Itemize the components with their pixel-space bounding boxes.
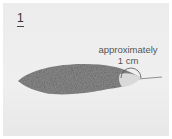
measurement-label: approximately 1 cm (96, 44, 160, 66)
leaf-illustration (0, 0, 172, 139)
measurement-label-line1: approximately (96, 44, 160, 55)
leaf-tip (119, 73, 141, 87)
thread-line (138, 77, 162, 79)
measurement-label-line2: 1 cm (96, 55, 160, 66)
